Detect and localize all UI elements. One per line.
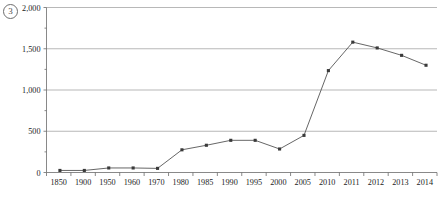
x-axis-ticks-group [47, 173, 438, 177]
gridlines-group [47, 8, 438, 132]
x-axis-tick-label: 1950 [99, 178, 115, 187]
data-point-marker [58, 169, 61, 172]
x-axis-tick-label: 2000 [270, 178, 286, 187]
data-point-marker [132, 166, 135, 169]
series-markers-group [58, 41, 427, 172]
y-axis-tick-label: 1,500 [22, 45, 40, 54]
x-axis-tick-label: 2013 [392, 178, 408, 187]
y-axis-tick-label: 0 [36, 169, 40, 178]
data-point-marker [302, 134, 305, 137]
data-point-marker [180, 148, 183, 151]
line-chart: 05001,0001,5002,000 18501900195019601970… [0, 0, 445, 208]
x-axis-tick-label: 2012 [368, 178, 384, 187]
x-axis-tick-label: 1900 [75, 178, 91, 187]
x-axis-tick-label: 1960 [124, 178, 140, 187]
y-axis-tick-label: 2,000 [22, 4, 40, 13]
x-axis-tick-label: 1995 [246, 178, 262, 187]
y-axis-tick-label: 500 [28, 127, 40, 136]
x-axis-tick-label: 2011 [344, 178, 360, 187]
data-point-marker [424, 64, 427, 67]
x-axis-tick-label: 1980 [173, 178, 189, 187]
data-point-marker [376, 46, 379, 49]
x-axis-tick-label: 1985 [197, 178, 213, 187]
y-axis-tick-label: 1,000 [22, 86, 40, 95]
data-point-marker [400, 54, 403, 57]
x-axis-tick-label: 2005 [295, 178, 311, 187]
data-point-marker [351, 41, 354, 44]
x-axis-tick-label: 1970 [148, 178, 164, 187]
x-axis-tick-label: 2010 [319, 178, 335, 187]
data-point-marker [83, 169, 86, 172]
x-axis-tick-label: 1850 [51, 178, 67, 187]
data-point-marker [254, 139, 257, 142]
x-axis-tick-label: 1990 [221, 178, 237, 187]
data-point-marker [156, 167, 159, 170]
data-point-marker [327, 69, 330, 72]
y-axis-labels-group: 05001,0001,5002,000 [22, 4, 40, 178]
data-point-marker [278, 147, 281, 150]
data-point-marker [205, 144, 208, 147]
y-axis-ticks-group [44, 8, 47, 173]
data-point-marker [107, 166, 110, 169]
data-point-marker [229, 139, 232, 142]
x-axis-tick-label: 2014 [417, 178, 433, 187]
chart-figure: 3 05001,0001,5002,000 185019001950196019… [0, 0, 445, 208]
series-line-path [60, 42, 426, 170]
x-axis-labels-group: 1850190019501960197019801985199019952000… [51, 178, 433, 187]
